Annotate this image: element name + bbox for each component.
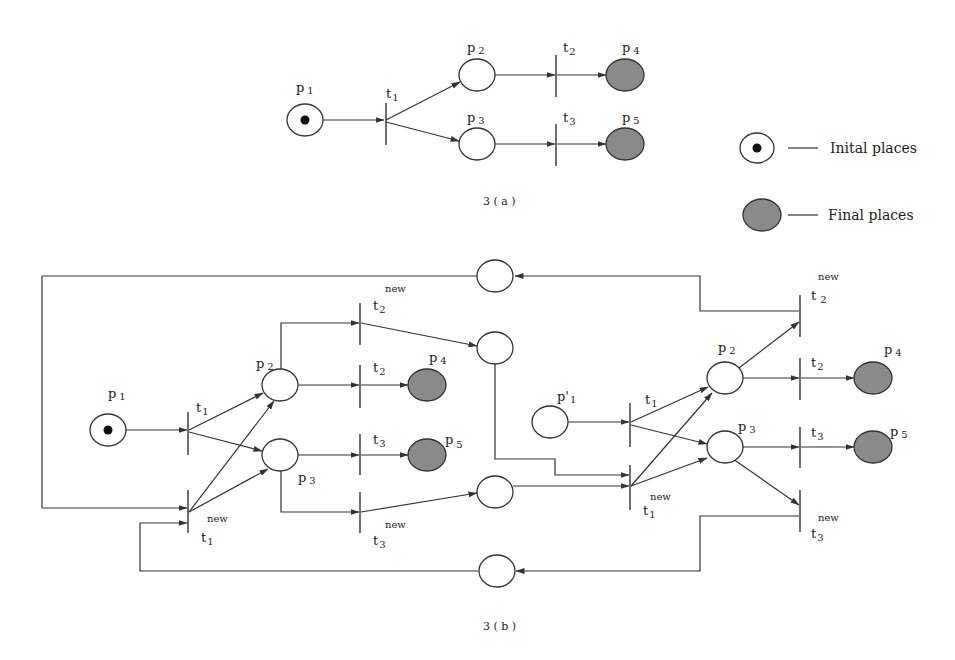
label-new-t2: new bbox=[385, 283, 406, 294]
label-new-t3: new bbox=[385, 519, 406, 530]
arc-p2-t2new-right bbox=[739, 322, 799, 368]
place-p5-final bbox=[606, 128, 644, 160]
arc-t1new-p3 bbox=[189, 469, 268, 512]
arc-t1-p3 bbox=[386, 122, 459, 141]
petri-net-figure: p1 t1 p2 p3 t2 t3 p4 p5 3 ( a ) Inital p… bbox=[0, 0, 955, 660]
arc-t1new-p2 bbox=[189, 401, 274, 512]
arc-t2new-placeX bbox=[361, 323, 477, 346]
label-new-t1: new bbox=[207, 513, 228, 524]
arc-t1-p2-right bbox=[631, 387, 708, 422]
label-t3new: t3 bbox=[373, 533, 386, 550]
arc-t1-p3-right bbox=[631, 425, 707, 444]
figure-3b: p1 t1 new t1 p2 p3 new t2 t2 p4 t3 p5 ne… bbox=[42, 260, 908, 633]
token-icon bbox=[301, 116, 310, 125]
label-t2new: t2 bbox=[373, 298, 386, 315]
arc-t1new-p2-right bbox=[631, 393, 712, 486]
label-t1new: t1 bbox=[201, 530, 214, 547]
label-t3new-right: t3 bbox=[811, 526, 824, 543]
place-x bbox=[477, 332, 513, 364]
label-p2: p2 bbox=[256, 356, 274, 372]
legend-final-label: Final places bbox=[828, 207, 914, 223]
place-loop-top bbox=[477, 260, 513, 292]
place-p4-final bbox=[606, 59, 644, 91]
arc-t3new-placeY bbox=[361, 493, 477, 512]
place-p4-right-final bbox=[854, 362, 892, 394]
label-p4-right: p4 bbox=[884, 342, 902, 358]
arc-t3new-right-to-loop-place-bottom bbox=[516, 516, 799, 571]
place-p1prime bbox=[532, 406, 568, 438]
label-t3-right: t3 bbox=[811, 425, 824, 442]
place-p3 bbox=[459, 128, 495, 160]
label-new-t3-right: new bbox=[818, 512, 839, 523]
label-p3-right: p3 bbox=[738, 419, 756, 435]
label-t1new-right: t1 bbox=[643, 503, 656, 520]
label-p1prime: p'1 bbox=[557, 389, 576, 405]
label-t1: t1 bbox=[196, 400, 209, 417]
arc-p3-t3new-right bbox=[733, 459, 799, 505]
place-p2-right bbox=[707, 362, 743, 394]
caption-3b: 3 ( b ) bbox=[483, 620, 516, 633]
place-p3-right bbox=[707, 431, 743, 463]
place-loop-bottom bbox=[479, 555, 515, 587]
label-t3: t3 bbox=[563, 110, 576, 127]
label-t1-right: t1 bbox=[645, 392, 658, 409]
place-p1-initial bbox=[90, 414, 126, 446]
label-t1: t1 bbox=[386, 86, 399, 103]
label-t2: t2 bbox=[563, 40, 576, 57]
place-p3 bbox=[262, 439, 298, 471]
place-p4-final bbox=[408, 369, 446, 401]
place-p5-final bbox=[408, 439, 446, 471]
label-p5: p5 bbox=[622, 110, 640, 126]
label-new-t1-right: new bbox=[650, 491, 671, 502]
label-new-t2-right: new bbox=[818, 271, 839, 282]
place-p2 bbox=[262, 369, 298, 401]
place-p2 bbox=[459, 59, 495, 91]
legend-initial-label: Inital places bbox=[830, 140, 917, 156]
caption-3a: 3 ( a ) bbox=[483, 195, 516, 208]
label-p2: p2 bbox=[467, 40, 485, 56]
figure-3a: p1 t1 p2 p3 t2 t3 p4 p5 3 ( a ) bbox=[287, 40, 644, 208]
legend-final-place-icon bbox=[743, 199, 781, 231]
label-t2new-right: t2 bbox=[811, 288, 827, 305]
label-p2-right: p2 bbox=[718, 340, 736, 356]
arc-p3-t3new bbox=[281, 471, 359, 512]
label-t2: t2 bbox=[373, 360, 386, 377]
token-icon bbox=[104, 426, 113, 435]
label-t3: t3 bbox=[373, 432, 386, 449]
label-p4: p4 bbox=[429, 350, 447, 366]
arc-t2new-right-to-loop-place-top bbox=[515, 276, 799, 311]
label-p4: p4 bbox=[622, 40, 640, 56]
label-p5: p5 bbox=[445, 432, 463, 450]
place-p1-initial bbox=[287, 104, 323, 136]
arc-loop-place-bottom-to-t1new-left bbox=[140, 523, 478, 571]
legend: Inital places Final places bbox=[740, 133, 917, 231]
label-p5-right: p5 bbox=[890, 424, 908, 440]
label-p3: p3 bbox=[298, 470, 316, 486]
label-p3: p3 bbox=[467, 110, 485, 126]
arc-t1-p3 bbox=[189, 432, 262, 451]
place-p5-right-final bbox=[854, 431, 892, 463]
place-y bbox=[477, 476, 513, 508]
label-p1: p1 bbox=[108, 386, 126, 402]
label-p1: p1 bbox=[296, 80, 314, 96]
legend-initial-place-icon bbox=[740, 133, 774, 163]
label-t2-right: t2 bbox=[811, 355, 824, 372]
arc-p2-t2new bbox=[281, 323, 359, 369]
diagram-svg: p1 t1 p2 p3 t2 t3 p4 p5 3 ( a ) Inital p… bbox=[0, 0, 955, 660]
